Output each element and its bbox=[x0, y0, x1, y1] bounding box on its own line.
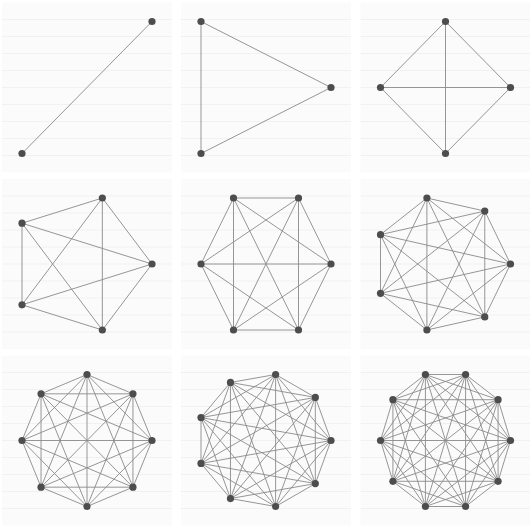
node bbox=[197, 260, 204, 267]
node bbox=[230, 326, 237, 333]
node bbox=[83, 503, 90, 510]
node bbox=[18, 150, 25, 157]
node bbox=[18, 301, 25, 308]
graph-panel-k7 bbox=[361, 179, 530, 349]
node bbox=[422, 371, 429, 378]
node bbox=[227, 379, 234, 386]
graph-panel-k2 bbox=[2, 3, 172, 173]
node bbox=[99, 194, 106, 201]
node bbox=[377, 231, 384, 238]
node bbox=[377, 437, 384, 444]
node bbox=[423, 194, 430, 201]
node bbox=[507, 437, 514, 444]
node bbox=[272, 371, 279, 378]
node bbox=[99, 326, 106, 333]
graph-panel-k5 bbox=[2, 179, 172, 349]
node bbox=[295, 194, 302, 201]
node bbox=[327, 84, 334, 91]
node bbox=[327, 260, 334, 267]
node bbox=[327, 437, 334, 444]
node bbox=[389, 396, 396, 403]
node bbox=[197, 460, 204, 467]
node bbox=[481, 313, 488, 320]
node bbox=[507, 260, 514, 267]
node bbox=[129, 390, 136, 397]
node bbox=[295, 326, 302, 333]
graph-panel-k3 bbox=[181, 3, 351, 173]
node bbox=[18, 437, 25, 444]
node bbox=[272, 503, 279, 510]
node bbox=[312, 480, 319, 487]
graph-panel-k10 bbox=[361, 356, 530, 526]
graph-panels bbox=[2, 3, 530, 526]
node bbox=[197, 414, 204, 421]
node bbox=[377, 290, 384, 297]
node bbox=[37, 390, 44, 397]
node bbox=[148, 260, 155, 267]
node bbox=[462, 503, 469, 510]
node bbox=[197, 150, 204, 157]
node bbox=[197, 18, 204, 25]
node bbox=[18, 220, 25, 227]
node bbox=[148, 437, 155, 444]
graph-panel-k6 bbox=[181, 179, 351, 349]
node bbox=[129, 484, 136, 491]
node bbox=[377, 84, 384, 91]
complete-graphs-figure bbox=[0, 0, 530, 527]
graph-panel-k9 bbox=[181, 356, 351, 526]
node bbox=[422, 503, 429, 510]
graph-panel-k8 bbox=[2, 356, 172, 526]
node bbox=[83, 371, 90, 378]
node bbox=[462, 371, 469, 378]
node bbox=[312, 394, 319, 401]
node bbox=[37, 484, 44, 491]
node bbox=[423, 326, 430, 333]
node bbox=[507, 84, 514, 91]
node bbox=[494, 396, 501, 403]
node bbox=[442, 150, 449, 157]
node bbox=[227, 495, 234, 502]
node bbox=[230, 194, 237, 201]
node bbox=[494, 478, 501, 485]
node bbox=[481, 207, 488, 214]
graph-panel-k4 bbox=[361, 3, 530, 173]
node bbox=[148, 18, 155, 25]
node bbox=[442, 18, 449, 25]
node bbox=[389, 478, 396, 485]
